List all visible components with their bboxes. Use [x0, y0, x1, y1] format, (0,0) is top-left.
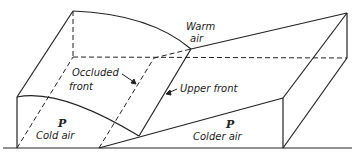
colder-wedge-top: [99, 98, 283, 148]
cold-air-label: Cold air: [36, 131, 74, 141]
upper-front-arrowhead: [166, 90, 171, 95]
colder-air-label: Colder air: [193, 132, 242, 142]
cold-block-top-left-edge: [17, 11, 73, 97]
hidden-horizontal: [73, 57, 347, 58]
warm-air-label-1: Warm: [186, 22, 215, 32]
occluded-front-label-1: Occluded: [72, 68, 119, 78]
occluded-arrowhead: [131, 79, 136, 84]
colder-air-p-symbol: P: [226, 119, 234, 130]
upper-front-label: Upper front: [180, 84, 237, 94]
colder-block-diag: [283, 58, 347, 148]
hidden-back-diag: [154, 49, 191, 58]
warm-front-top-curve: [73, 11, 191, 49]
occluded-front-label-2: front: [69, 82, 93, 92]
cold-air-p-symbol: P: [58, 118, 66, 129]
warm-air-label-2: air: [190, 34, 203, 44]
